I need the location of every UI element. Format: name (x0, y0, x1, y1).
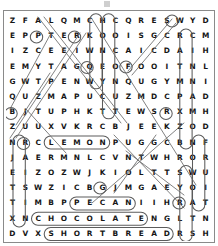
grid-cell[interactable]: R (161, 104, 174, 119)
grid-cell[interactable]: E (32, 150, 45, 165)
grid-cell[interactable]: G (70, 59, 83, 74)
grid-cell[interactable]: C (109, 43, 122, 58)
grid-cell[interactable]: Y (173, 180, 186, 195)
grid-cell[interactable]: V (19, 226, 32, 241)
grid-cell[interactable]: L (45, 135, 58, 150)
grid-cell[interactable]: N (186, 59, 199, 74)
grid-cell[interactable]: D (6, 226, 19, 241)
grid-cell[interactable]: P (173, 89, 186, 104)
grid-cell[interactable]: O (83, 210, 96, 225)
grid-cell[interactable]: L (45, 13, 58, 28)
grid-cell[interactable]: F (122, 59, 135, 74)
grid-cell[interactable]: T (45, 28, 58, 43)
grid-cell[interactable]: M (122, 180, 135, 195)
grid-cell[interactable]: I (135, 195, 148, 210)
grid-cell[interactable]: U (45, 104, 58, 119)
grid-cell[interactable]: J (83, 165, 96, 180)
grid-cell[interactable]: C (70, 210, 83, 225)
grid-cell[interactable]: K (161, 119, 174, 134)
grid-cell[interactable]: E (96, 59, 109, 74)
grid-cell[interactable]: D (199, 89, 212, 104)
grid-cell[interactable]: J (122, 119, 135, 134)
grid-cell[interactable]: C (83, 13, 96, 28)
grid-cell[interactable]: D (161, 43, 174, 58)
grid-cell[interactable]: R (83, 226, 96, 241)
grid-cell[interactable]: O (83, 135, 96, 150)
grid-cell[interactable]: C (161, 28, 174, 43)
grid-cell[interactable]: R (173, 28, 186, 43)
grid-cell[interactable]: Z (32, 165, 45, 180)
grid-cell[interactable]: E (148, 119, 161, 134)
grid-cell[interactable]: D (161, 226, 174, 241)
grid-cell[interactable]: X (45, 119, 58, 134)
grid-cell[interactable]: E (122, 104, 135, 119)
grid-cell[interactable]: N (122, 195, 135, 210)
grid-cell[interactable]: N (199, 210, 212, 225)
grid-cell[interactable]: U (122, 135, 135, 150)
grid-cell[interactable]: Y (32, 59, 45, 74)
grid-cell[interactable]: C (96, 150, 109, 165)
grid-cell[interactable]: W (148, 150, 161, 165)
grid-cell[interactable]: G (6, 74, 19, 89)
grid-cell[interactable]: C (161, 135, 174, 150)
grid-cell[interactable]: L (83, 150, 96, 165)
grid-cell[interactable]: E (135, 119, 148, 134)
grid-cell[interactable]: N (19, 210, 32, 225)
grid-cell[interactable]: B (45, 195, 58, 210)
grid-cell[interactable]: E (58, 135, 71, 150)
grid-cell[interactable]: M (186, 104, 199, 119)
grid-cell[interactable]: A (186, 89, 199, 104)
grid-cell[interactable]: D (199, 119, 212, 134)
grid-cell[interactable]: C (32, 43, 45, 58)
grid-cell[interactable]: N (70, 74, 83, 89)
grid-cell[interactable]: W (135, 104, 148, 119)
grid-cell[interactable]: T (6, 195, 19, 210)
grid-cell[interactable]: R (199, 150, 212, 165)
grid-cell[interactable]: J (19, 104, 32, 119)
grid-cell[interactable]: B (83, 180, 96, 195)
grid-cell[interactable]: A (58, 59, 71, 74)
grid-cell[interactable]: Z (32, 89, 45, 104)
grid-cell[interactable]: I (58, 180, 71, 195)
grid-cell[interactable]: A (109, 195, 122, 210)
grid-cell[interactable]: N (148, 210, 161, 225)
grid-cell[interactable]: C (186, 28, 199, 43)
grid-cell[interactable]: R (122, 226, 135, 241)
grid-cell[interactable]: U (109, 89, 122, 104)
grid-cell[interactable]: O (58, 210, 71, 225)
grid-cell[interactable]: W (83, 74, 96, 89)
grid-cell[interactable]: U (32, 119, 45, 134)
grid-cell[interactable]: H (161, 150, 174, 165)
grid-cell[interactable]: P (19, 28, 32, 43)
grid-cell[interactable]: J (109, 180, 122, 195)
grid-cell[interactable]: N (96, 43, 109, 58)
grid-cell[interactable]: Y (161, 74, 174, 89)
grid-cell[interactable]: N (109, 74, 122, 89)
grid-cell[interactable]: C (32, 210, 45, 225)
grid-cell[interactable]: E (45, 43, 58, 58)
grid-cell[interactable]: N (70, 150, 83, 165)
grid-cell[interactable]: C (96, 119, 109, 134)
grid-cell[interactable]: N (6, 135, 19, 150)
grid-cell[interactable]: B (173, 135, 186, 150)
grid-cell[interactable]: P (45, 74, 58, 89)
grid-cell[interactable]: G (148, 74, 161, 89)
grid-cell[interactable]: E (6, 165, 19, 180)
grid-cell[interactable]: P (70, 195, 83, 210)
grid-cell[interactable]: D (199, 13, 212, 28)
grid-cell[interactable]: I (19, 195, 32, 210)
grid-cell[interactable]: E (83, 195, 96, 210)
grid-cell[interactable]: T (173, 59, 186, 74)
grid-cell[interactable]: O (45, 165, 58, 180)
grid-cell[interactable]: P (109, 135, 122, 150)
grid-cell[interactable]: H (58, 226, 71, 241)
grid-cell[interactable]: Q (83, 59, 96, 74)
grid-cell[interactable]: Y (186, 13, 199, 28)
grid-cell[interactable]: S (45, 226, 58, 241)
grid-cell[interactable]: L (96, 210, 109, 225)
grid-cell[interactable]: Q (6, 89, 19, 104)
grid-cell[interactable]: I (148, 195, 161, 210)
grid-cell[interactable]: Z (58, 165, 71, 180)
grid-cell[interactable]: A (109, 210, 122, 225)
grid-cell[interactable]: B (6, 104, 19, 119)
